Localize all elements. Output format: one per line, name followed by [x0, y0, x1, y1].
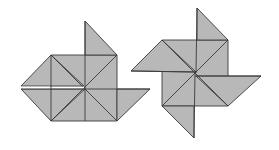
right-top-flap — [197, 8, 228, 40]
figures-canvas — [0, 0, 279, 150]
right-bottom-flap — [162, 106, 194, 138]
right-figure — [131, 8, 261, 138]
left-top-flap — [85, 21, 117, 55]
left-right-flap — [117, 89, 150, 121]
